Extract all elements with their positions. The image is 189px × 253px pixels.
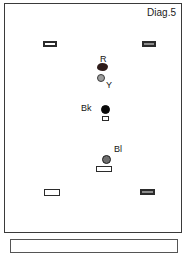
diagram-title: Diag.5 (147, 7, 176, 18)
marker-player-yellow[interactable] (97, 74, 105, 82)
marker-label-player-black: Bk (81, 103, 92, 113)
diagram-frame: Diag.5 RYBkBl (4, 3, 182, 233)
marker-corner-top-left[interactable] (43, 41, 57, 47)
marker-player-blue[interactable] (102, 155, 111, 164)
marker-corner-bottom-right[interactable] (140, 189, 155, 195)
marker-corner-top-right[interactable] (142, 41, 156, 47)
marker-label-player-blue: Bl (114, 144, 122, 154)
marker-marker-black-base[interactable] (102, 116, 109, 121)
caption-box (10, 239, 178, 253)
marker-marker-blue-base[interactable] (96, 166, 112, 172)
marker-player-red[interactable] (97, 63, 108, 71)
marker-label-player-yellow: Y (106, 80, 112, 90)
marker-corner-bottom-left[interactable] (44, 189, 60, 196)
marker-player-black[interactable] (101, 105, 110, 114)
